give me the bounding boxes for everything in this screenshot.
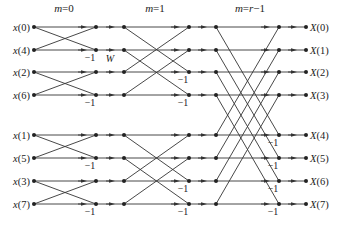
output-label: X(2): [309, 67, 329, 79]
node-dot: [304, 156, 308, 160]
node-dot: [214, 133, 218, 137]
node-dot: [122, 48, 126, 52]
node-dot: [122, 70, 126, 74]
node-dot: [32, 133, 36, 137]
node-dot: [187, 25, 191, 29]
node-dot: [304, 48, 308, 52]
input-label: x(4): [12, 45, 30, 57]
node-dot: [304, 133, 308, 137]
node-dot: [122, 179, 126, 183]
node-dot: [122, 93, 126, 97]
node-dot: [32, 48, 36, 52]
node-dot: [94, 70, 98, 74]
node-dot: [122, 25, 126, 29]
edges: [34, 27, 306, 204]
node-dot: [32, 70, 36, 74]
node-dot: [122, 133, 126, 137]
node-dot: [94, 179, 98, 183]
nodes: [32, 25, 308, 206]
fft-butterfly-diagram: x(0)x(4)x(2)x(6)x(1)x(5)x(3)x(7)X(0)X(1)…: [0, 0, 337, 228]
node-dot: [304, 70, 308, 74]
node-dot: [32, 179, 36, 183]
node-dot: [277, 70, 281, 74]
node-dot: [94, 25, 98, 29]
output-label: X(1): [309, 45, 329, 57]
minus-one-label: −1: [85, 97, 96, 108]
minus-one-label: −1: [85, 206, 96, 217]
node-dot: [32, 156, 36, 160]
node-dot: [304, 93, 308, 97]
node-dot: [187, 48, 191, 52]
output-label: X(5): [309, 153, 329, 165]
minus-one-label: −1: [178, 97, 189, 108]
node-dot: [277, 93, 281, 97]
node-dot: [214, 70, 218, 74]
node-dot: [304, 25, 308, 29]
output-label: X(0): [309, 22, 329, 34]
node-dot: [187, 133, 191, 137]
input-label: x(3): [12, 176, 30, 188]
node-dot: [277, 25, 281, 29]
node-dot: [304, 179, 308, 183]
minus-one-label: −1: [85, 52, 96, 63]
minus-one-label: −1: [178, 183, 189, 194]
minus-one-label: −1: [268, 137, 279, 148]
node-dot: [277, 48, 281, 52]
output-label: X(3): [309, 90, 329, 102]
node-dot: [214, 48, 218, 52]
node-dot: [122, 156, 126, 160]
node-dot: [214, 179, 218, 183]
labels: x(0)x(4)x(2)x(6)x(1)x(5)x(3)x(7)X(0)X(1)…: [12, 2, 329, 217]
twiddle-label: W: [106, 53, 116, 64]
minus-one-label: −1: [85, 160, 96, 171]
node-dot: [94, 133, 98, 137]
input-label: x(5): [12, 153, 30, 165]
node-dot: [32, 25, 36, 29]
input-label: x(7): [12, 199, 30, 211]
node-dot: [32, 202, 36, 206]
output-label: X(4): [309, 130, 329, 142]
output-label: X(6): [309, 176, 329, 188]
node-dot: [214, 93, 218, 97]
minus-one-label: −1: [178, 206, 189, 217]
minus-one-label: −1: [268, 183, 279, 194]
stage-label: m=1: [145, 2, 165, 14]
output-label: X(7): [309, 199, 329, 211]
node-dot: [214, 25, 218, 29]
input-label: x(2): [12, 67, 30, 79]
node-dot: [304, 202, 308, 206]
node-dot: [32, 93, 36, 97]
node-dot: [214, 156, 218, 160]
input-label: x(0): [12, 22, 30, 34]
node-dot: [187, 156, 191, 160]
minus-one-label: −1: [268, 206, 279, 217]
node-dot: [122, 202, 126, 206]
input-label: x(1): [12, 130, 30, 142]
minus-one-label: −1: [268, 160, 279, 171]
minus-one-label: −1: [178, 74, 189, 85]
node-dot: [214, 202, 218, 206]
input-label: x(6): [12, 90, 30, 102]
stage-label: m=0: [54, 2, 74, 14]
stage-label: m=r−1: [235, 2, 265, 14]
